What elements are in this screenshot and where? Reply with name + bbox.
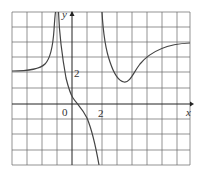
function-graph: y x 0 2 2 <box>0 0 197 174</box>
curve <box>12 12 190 165</box>
y-tick-label: 2 <box>74 67 80 79</box>
origin-label: 0 <box>62 106 68 118</box>
labels: y x 0 2 2 <box>61 8 191 119</box>
left-branch <box>12 12 56 71</box>
x-tick-label: 2 <box>98 107 104 119</box>
x-axis-label: x <box>185 106 191 118</box>
y-axis-label: y <box>61 8 67 20</box>
grid <box>12 12 190 165</box>
middle-branch <box>59 12 100 165</box>
